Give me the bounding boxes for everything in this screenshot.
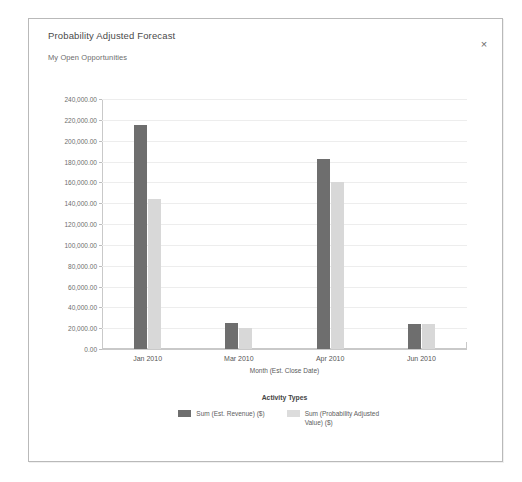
legend-label: Sum (Est. Revenue) ($) [196,409,264,418]
y-axis-tick [99,349,102,350]
gridline [102,349,467,350]
x-axis-tick-label: Jun 2010 [361,355,481,362]
bar-group: Jan 2010 [102,99,193,349]
bar-group: Mar 2010 [193,99,284,349]
bar[interactable] [225,323,238,349]
y-axis-tick-label: 20,000.00 [68,325,97,332]
legend-title: Activity Types [102,394,467,401]
legend-item[interactable]: Sum (Probability Adjusted Value) ($) [287,409,391,428]
chart-legend: Activity Types Sum (Est. Revenue) ($)Sum… [102,394,467,428]
y-axis-tick-label: 100,000.00 [64,241,97,248]
legend-items: Sum (Est. Revenue) ($)Sum (Probability A… [102,409,467,428]
bar[interactable] [134,125,147,349]
legend-label: Sum (Probability Adjusted Value) ($) [305,409,391,428]
y-axis-tick-label: 120,000.00 [64,221,97,228]
bar[interactable] [422,324,435,349]
legend-item[interactable]: Sum (Est. Revenue) ($) [178,409,264,418]
chart-dialog-panel: × Probability Adjusted Forecast My Open … [28,18,503,462]
y-axis-tick-label: 80,000.00 [68,262,97,269]
y-axis-tick-label: 160,000.00 [64,179,97,186]
bar[interactable] [148,199,161,349]
bar[interactable] [408,324,421,349]
y-axis-tick-label: 220,000.00 [64,116,97,123]
bar[interactable] [239,328,252,349]
y-axis-tick-label: 60,000.00 [68,283,97,290]
bar-group: Jun 2010 [376,99,467,349]
legend-swatch-icon [178,410,191,417]
legend-swatch-icon [287,410,300,417]
y-axis-tick-label: 40,000.00 [68,304,97,311]
y-axis-tick-label: 140,000.00 [64,200,97,207]
chart-plot-area: 0.0020,000.0040,000.0060,000.0080,000.00… [102,99,467,349]
y-axis-tick-label: 200,000.00 [64,137,97,144]
bar[interactable] [317,159,330,349]
x-axis-title: Month (Est. Close Date) [102,367,467,374]
bar-group: Apr 2010 [285,99,376,349]
y-axis-tick-label: 0.00 [84,346,97,353]
y-axis-tick-label: 240,000.00 [64,96,97,103]
y-axis-tick-label: 180,000.00 [64,158,97,165]
bar[interactable] [331,182,344,349]
